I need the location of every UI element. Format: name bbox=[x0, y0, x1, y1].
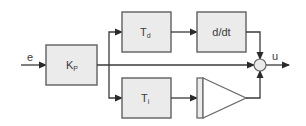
kp-block[interactable]: KP bbox=[46, 45, 97, 85]
ddt-to-sum-arrow bbox=[246, 32, 260, 59]
input-label: e bbox=[27, 51, 33, 63]
input-signal: e bbox=[21, 51, 46, 65]
integrator-to-sum-arrow bbox=[246, 71, 260, 98]
integrator-block[interactable] bbox=[197, 78, 246, 118]
integrator-triangle-icon bbox=[203, 78, 246, 118]
ti-block[interactable]: Ti bbox=[122, 78, 171, 118]
ddt-label: d/dt bbox=[212, 26, 230, 38]
td-block[interactable]: Td bbox=[122, 12, 171, 52]
summing-junction[interactable] bbox=[254, 59, 266, 71]
output-signal: u bbox=[266, 50, 289, 65]
output-label: u bbox=[272, 50, 278, 62]
pid-block-diagram: e KP Td d/dt Ti u bbox=[0, 0, 306, 126]
integral-branch bbox=[109, 65, 122, 98]
integrator-bar bbox=[197, 78, 203, 118]
derivative-branch bbox=[109, 32, 122, 65]
derivative-block[interactable]: d/dt bbox=[197, 12, 246, 52]
